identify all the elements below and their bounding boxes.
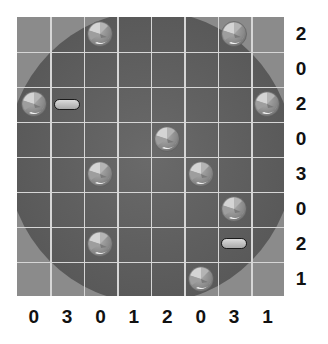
grid-cell[interactable] <box>50 87 83 122</box>
grid-cell[interactable] <box>217 52 250 87</box>
grid-cell[interactable] <box>251 261 284 296</box>
grid-cell[interactable] <box>50 261 83 296</box>
ball-icon <box>87 161 113 187</box>
row-clue: 2 <box>290 87 312 122</box>
grid-cell[interactable] <box>151 52 184 87</box>
ball-icon <box>21 91 47 117</box>
grid-cell[interactable] <box>251 226 284 261</box>
grid-cell[interactable] <box>184 191 217 226</box>
grid-cell[interactable] <box>217 261 250 296</box>
column-clue: 1 <box>117 303 150 331</box>
grid-cell[interactable] <box>17 157 50 192</box>
row-clue: 2 <box>290 227 312 262</box>
grid-cell[interactable] <box>117 52 150 87</box>
grid-cell[interactable] <box>217 226 250 261</box>
ball-icon <box>154 126 180 152</box>
grid-cell[interactable] <box>151 226 184 261</box>
grid-cell[interactable] <box>50 52 83 87</box>
grid-cell[interactable] <box>117 261 150 296</box>
grid-cell[interactable] <box>184 87 217 122</box>
row-clue: 3 <box>290 157 312 192</box>
ball-icon <box>221 196 247 222</box>
row-clue: 0 <box>290 192 312 227</box>
grid-cell[interactable] <box>17 52 50 87</box>
grid-cell[interactable] <box>84 87 117 122</box>
ball-icon <box>188 266 214 292</box>
ball-icon <box>87 21 113 47</box>
grid-cell[interactable] <box>84 226 117 261</box>
column-clue: 0 <box>84 303 117 331</box>
grid-cell[interactable] <box>217 17 250 52</box>
grid-cell[interactable] <box>17 17 50 52</box>
grid-cell[interactable] <box>117 226 150 261</box>
column-clue: 0 <box>17 303 50 331</box>
grid-cell[interactable] <box>184 122 217 157</box>
grid-cell[interactable] <box>251 157 284 192</box>
row-clue: 0 <box>290 122 312 157</box>
grid-cell[interactable] <box>117 87 150 122</box>
grid-cell[interactable] <box>50 226 83 261</box>
grid-cell[interactable] <box>84 261 117 296</box>
column-clue: 3 <box>217 303 250 331</box>
grid-cell[interactable] <box>17 226 50 261</box>
grid-cell[interactable] <box>117 17 150 52</box>
pill-segment-icon <box>221 238 247 249</box>
grid-cell[interactable] <box>217 157 250 192</box>
grid-cell[interactable] <box>184 157 217 192</box>
column-clue: 0 <box>184 303 217 331</box>
row-clue: 2 <box>290 17 312 52</box>
grid-cell[interactable] <box>184 226 217 261</box>
grid-cell[interactable] <box>151 261 184 296</box>
pill-segment-icon <box>54 99 80 110</box>
grid-cell[interactable] <box>117 157 150 192</box>
grid-cell[interactable] <box>151 87 184 122</box>
grid-cell[interactable] <box>50 191 83 226</box>
grid-cell[interactable] <box>17 261 50 296</box>
ball-icon <box>188 161 214 187</box>
grid-cell[interactable] <box>251 122 284 157</box>
grid-cell[interactable] <box>50 122 83 157</box>
grid-cell[interactable] <box>151 17 184 52</box>
game-board <box>17 17 284 296</box>
grid-cell[interactable] <box>117 191 150 226</box>
grid-cell[interactable] <box>251 52 284 87</box>
grid-cell[interactable] <box>17 122 50 157</box>
column-clue: 3 <box>50 303 83 331</box>
grid-cell[interactable] <box>50 17 83 52</box>
grid-cell[interactable] <box>251 191 284 226</box>
grid-cell[interactable] <box>151 122 184 157</box>
row-clue: 0 <box>290 52 312 87</box>
column-clue: 2 <box>151 303 184 331</box>
grid-cell[interactable] <box>151 191 184 226</box>
grid-cell[interactable] <box>117 122 150 157</box>
grid-cell[interactable] <box>251 17 284 52</box>
column-clue: 1 <box>251 303 284 331</box>
grid-cell[interactable] <box>217 122 250 157</box>
grid-cell[interactable] <box>50 157 83 192</box>
ball-icon <box>87 231 113 257</box>
ball-icon <box>221 21 247 47</box>
grid-cell[interactable] <box>84 122 117 157</box>
grid-cell[interactable] <box>84 191 117 226</box>
grid-cell[interactable] <box>184 52 217 87</box>
grid-cell[interactable] <box>84 17 117 52</box>
grid-cell[interactable] <box>17 87 50 122</box>
grid-cell[interactable] <box>184 17 217 52</box>
grid-cell[interactable] <box>184 261 217 296</box>
row-clue: 1 <box>290 262 312 297</box>
grid-cell[interactable] <box>84 157 117 192</box>
ball-icon <box>254 91 280 117</box>
grid-cell[interactable] <box>217 191 250 226</box>
grid-cell[interactable] <box>17 191 50 226</box>
grid-cell[interactable] <box>84 52 117 87</box>
grid-cell[interactable] <box>151 157 184 192</box>
grid-cell[interactable] <box>251 87 284 122</box>
grid-cell[interactable] <box>217 87 250 122</box>
